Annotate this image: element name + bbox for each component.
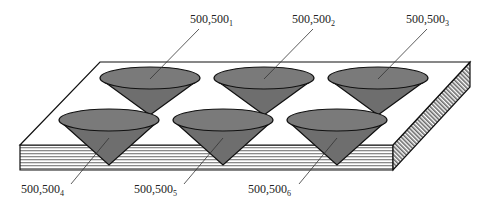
label-cone-1: 500,5001 [190, 13, 233, 25]
label-cone-2: 500,5002 [292, 13, 335, 25]
label-cone-5: 500,5005 [134, 183, 177, 195]
label-cone-4: 500,5004 [21, 183, 64, 195]
plate-diagram [0, 0, 491, 209]
label-cone-3: 500,5003 [406, 13, 449, 25]
label-cone-6: 500,5006 [248, 183, 291, 195]
